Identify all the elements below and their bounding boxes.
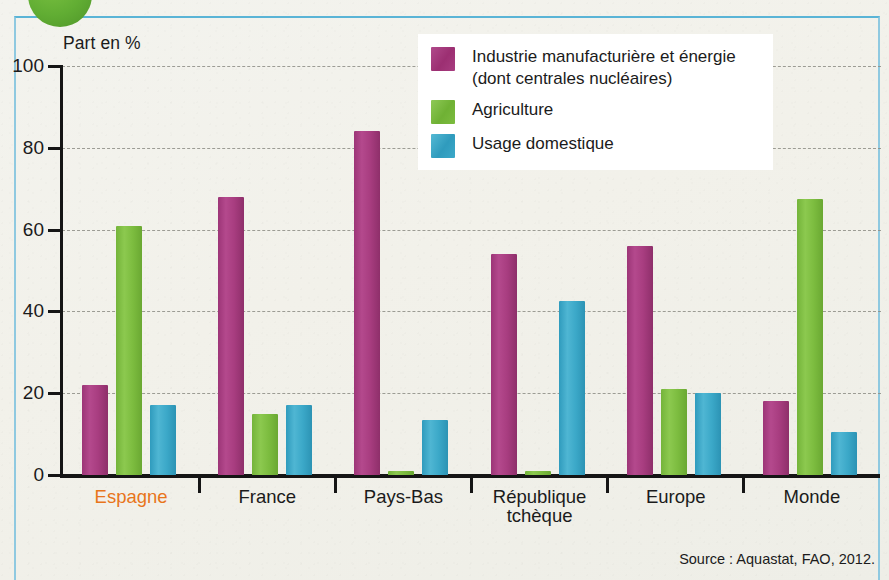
gridline [62,311,881,312]
bar[interactable] [559,301,585,475]
x-axis-category-label: Espagne [63,487,199,506]
bar[interactable] [116,226,142,475]
bar[interactable] [286,405,312,475]
y-axis-label: 20 [0,382,44,404]
bar[interactable] [150,405,176,475]
bar[interactable] [491,254,517,475]
x-axis-category-label: Monde [744,487,880,506]
y-axis-title: Part en % [63,33,141,54]
bar[interactable] [218,197,244,475]
legend-item[interactable]: Industrie manufacturière et énergie (don… [431,46,759,90]
gridline [62,393,881,394]
legend-swatch-agriculture [431,100,455,124]
legend-swatch-domestic [431,134,455,158]
legend-label-industry: Industrie manufacturière et énergie (don… [472,46,736,90]
y-axis-label: 40 [0,300,44,322]
y-axis-label: 0 [0,464,44,486]
y-axis-label: 60 [0,219,44,241]
bar[interactable] [525,471,551,475]
chart-legend: Industrie manufacturière et énergie (don… [418,34,773,170]
x-axis-category-label: Europe [608,487,744,506]
legend-item[interactable]: Agriculture [431,99,759,124]
x-axis-category-label: République tchèque [472,487,608,526]
bar[interactable] [354,131,380,475]
bar[interactable] [763,401,789,475]
source-note: Source : Aquastat, FAO, 2012. [679,551,875,567]
legend-label-agriculture: Agriculture [472,99,553,121]
y-axis-label: 80 [0,137,44,159]
bar[interactable] [252,414,278,475]
bar[interactable] [797,199,823,475]
bar[interactable] [695,393,721,475]
bar[interactable] [388,471,414,475]
bar[interactable] [82,385,108,475]
figure-container: Part en % 020406080100 EspagneFrancePays… [0,0,889,580]
gridline [62,230,881,231]
bar[interactable] [831,432,857,475]
legend-swatch-industry [431,47,455,71]
bar[interactable] [661,389,687,475]
bar[interactable] [627,246,653,475]
y-axis-label: 100 [0,55,44,77]
y-axis-line [60,65,63,477]
legend-label-domestic: Usage domestique [472,133,614,155]
bar[interactable] [422,420,448,475]
x-axis-category-label: France [199,487,335,506]
x-axis-category-label: Pays-Bas [335,487,471,506]
legend-item[interactable]: Usage domestique [431,133,759,158]
